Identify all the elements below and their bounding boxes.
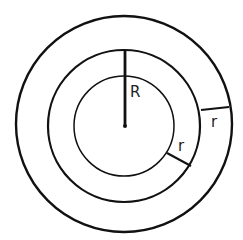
center-point <box>123 124 127 128</box>
concentric-circles-figure <box>0 0 243 240</box>
diagram: R r r <box>0 0 243 240</box>
label-r-outer: r <box>211 115 217 130</box>
label-r-inner: r <box>178 139 184 154</box>
outer-ring-width-line <box>201 107 229 110</box>
label-R: R <box>130 85 140 100</box>
